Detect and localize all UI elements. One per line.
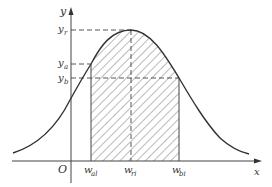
origin-label: O bbox=[58, 163, 67, 176]
bell-curve-diagram: y x O y r y a y b w al w ri w bi bbox=[0, 0, 272, 187]
x-mark-al: w al bbox=[84, 164, 97, 178]
y-mark-a: y a bbox=[57, 57, 68, 71]
y-axis-arrow-icon bbox=[69, 7, 74, 15]
x-axis-arrow-icon bbox=[254, 159, 262, 164]
hatched-region bbox=[91, 25, 179, 161]
x-mark-ri: w ri bbox=[124, 164, 137, 178]
svg-text:y: y bbox=[57, 72, 64, 83]
svg-text:al: al bbox=[91, 170, 97, 178]
y-mark-r: y r bbox=[57, 23, 68, 37]
x-axis-label: x bbox=[254, 166, 260, 177]
svg-text:a: a bbox=[64, 63, 68, 71]
svg-text:ri: ri bbox=[131, 170, 137, 178]
svg-text:y: y bbox=[57, 57, 64, 68]
y-mark-b: y b bbox=[57, 72, 69, 86]
svg-text:b: b bbox=[64, 78, 69, 86]
svg-text:bi: bi bbox=[179, 170, 186, 178]
svg-text:r: r bbox=[64, 29, 68, 37]
y-axis-label: y bbox=[59, 5, 67, 18]
x-mark-bi: w bi bbox=[172, 164, 186, 178]
svg-text:y: y bbox=[57, 23, 64, 34]
